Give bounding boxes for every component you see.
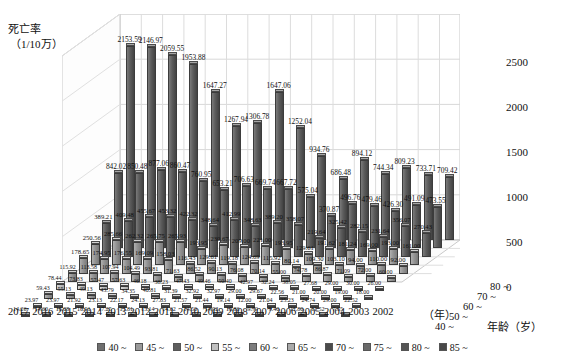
value-label-70-2004: 169.00 [360, 241, 378, 249]
value-label-45-2012: 24.13 [131, 296, 145, 304]
value-label-50-2011: 31.39 [164, 287, 178, 295]
value-label-80-2015: 877.06 [149, 160, 169, 168]
value-label-85-2003: 733.71 [416, 165, 436, 173]
value-label-55-2016: 73.83 [69, 275, 83, 283]
value-label-50-2015: 49.13 [79, 285, 93, 293]
x-tick-2008: 2008 [227, 306, 248, 317]
value-label-60-2009: 76.08 [230, 266, 244, 274]
legend-item-75[interactable]: 75 ~ [363, 342, 392, 353]
x-tick-2013: 2013 [105, 306, 126, 317]
value-label-50-2012: 40.81 [143, 286, 157, 294]
value-label-55-2007: 32.24 [261, 278, 275, 286]
legend-swatch-icon [325, 343, 333, 351]
value-label-50-2017: 59.43 [36, 284, 50, 292]
x-tick-2004: 2004 [324, 306, 345, 317]
value-label-65-2008: 115.92 [263, 254, 281, 262]
legend-item-55[interactable]: 55 ~ [211, 342, 240, 353]
value-label-75-2013: 422.32 [180, 210, 198, 218]
value-label-60-2010: 90.13 [209, 265, 223, 273]
value-label-75-2014: 453.32 [158, 207, 176, 215]
value-label-45-2011: 27.83 [153, 296, 167, 304]
value-label-60-2008: 70.14 [251, 267, 265, 275]
value-label-60-2004: 71.09 [336, 267, 350, 275]
bar-50-2002 [364, 297, 373, 299]
chart-canvas: 死亡率 （1/10万） [0, 0, 565, 360]
legend-swatch-icon [249, 343, 257, 351]
bar-60-2002 [387, 277, 396, 282]
legend-item-65[interactable]: 65 ~ [287, 342, 316, 353]
value-label-65-2009: 124.69 [242, 253, 260, 261]
value-label-70-2003: 193.00 [381, 239, 399, 247]
value-label-65-2017: 178.65 [71, 248, 89, 256]
value-label-80-2017: 842.02 [106, 163, 126, 171]
legend-label: 40 ~ [108, 342, 126, 353]
bar-80-2008 [306, 196, 315, 248]
y-axis-title: 死亡率 （1/10万） [8, 22, 63, 52]
bar-85-2002 [445, 176, 454, 240]
value-label-75-2015: 455.67 [137, 207, 155, 215]
y-tick-2000: 2000 [506, 101, 528, 113]
value-label-60-2007: 55.00 [273, 268, 287, 276]
value-label-45-2013: 22.17 [110, 296, 124, 304]
x-tick-2014: 2014 [81, 306, 102, 317]
legend-item-50[interactable]: 50 ~ [173, 342, 202, 353]
y-axis-title-line1: 死亡率 [8, 22, 63, 37]
value-label-75-2002: 270.43 [414, 223, 432, 231]
value-label-75-2006: 325.42 [329, 218, 347, 226]
value-label-60-2015: 107.94 [102, 263, 119, 271]
value-label-85-2002: 709.42 [437, 167, 457, 175]
legend-label: 60 ~ [260, 342, 278, 353]
value-label-65-2010: 119.18 [220, 254, 238, 262]
plot-area: 2153.592146.972059.551953.881647.271267.… [62, 14, 460, 284]
value-label-55-2015: 57.47 [91, 276, 105, 284]
legend-item-80[interactable]: 80 ~ [401, 342, 430, 353]
legend-swatch-icon [401, 343, 409, 351]
y-tick-2500: 2500 [506, 56, 528, 68]
x-tick-2017: 2017 [8, 306, 29, 317]
value-label-70-2005: 181.24 [338, 240, 356, 248]
bar-80-2002 [433, 206, 442, 249]
bar-75-2002 [422, 232, 431, 256]
value-label-70-2007: 129.61 [296, 244, 314, 252]
value-label-70-2002: 161.00 [402, 242, 420, 250]
value-label-60-2012: 71.63 [166, 267, 180, 275]
bar-70-2002 [410, 251, 419, 266]
value-label-50-2010: 32.92 [185, 287, 199, 295]
value-label-70-2017: 250.56 [83, 234, 101, 242]
value-label-75-2005: 282.15 [350, 222, 368, 230]
value-label-65-2011: 129.61 [199, 253, 217, 261]
value-label-60-2014: 104.49 [123, 264, 140, 272]
value-label-65-2007: 80.14 [284, 257, 299, 265]
value-label-85-2005: 744.34 [373, 164, 393, 172]
value-label-70-2013: 265.93 [168, 232, 186, 240]
legend-swatch-icon [287, 343, 295, 351]
x-tick-2009: 2009 [202, 306, 223, 317]
value-label-75-2017: 389.21 [94, 213, 112, 221]
legend-item-60[interactable]: 60 ~ [249, 342, 278, 353]
x-tick-2003: 2003 [348, 306, 369, 317]
bar-55-2002 [375, 288, 384, 290]
value-label-70-2011: 230.67 [211, 235, 229, 243]
value-label-50-2014: 43.79 [100, 286, 114, 294]
legend-swatch-icon [173, 343, 181, 351]
value-label-65-2012: 116.43 [178, 254, 196, 262]
x-axis-ticks: 2017201620152014201320122011201020092008… [0, 306, 565, 322]
value-label-75-2016: 409.48 [116, 211, 134, 219]
value-label-85-2010: 1647.06 [267, 82, 291, 90]
legend-item-85[interactable]: 85 ~ [439, 342, 468, 353]
value-label-85-2006: 894.12 [352, 150, 372, 158]
legend-item-70[interactable]: 70 ~ [325, 342, 354, 353]
legend-swatch-icon [97, 343, 105, 351]
x-tick-2011: 2011 [154, 306, 175, 317]
legend-item-45[interactable]: 45 ~ [135, 342, 164, 353]
value-label-70-2015: 262.32 [125, 232, 143, 240]
value-label-75-2011: 412.99 [222, 210, 240, 218]
value-label-60-2017: 115.92 [60, 263, 76, 271]
value-label-50-2002: 18.00 [356, 288, 370, 296]
bar-65-2002 [399, 265, 408, 273]
value-label-70-2009: 221.00 [253, 236, 271, 244]
value-label-85-2014: 1953.88 [181, 54, 205, 62]
legend-item-40[interactable]: 40 ~ [97, 342, 126, 353]
legend-swatch-icon [211, 343, 219, 351]
value-label-45-2004: 24.74 [302, 296, 316, 304]
